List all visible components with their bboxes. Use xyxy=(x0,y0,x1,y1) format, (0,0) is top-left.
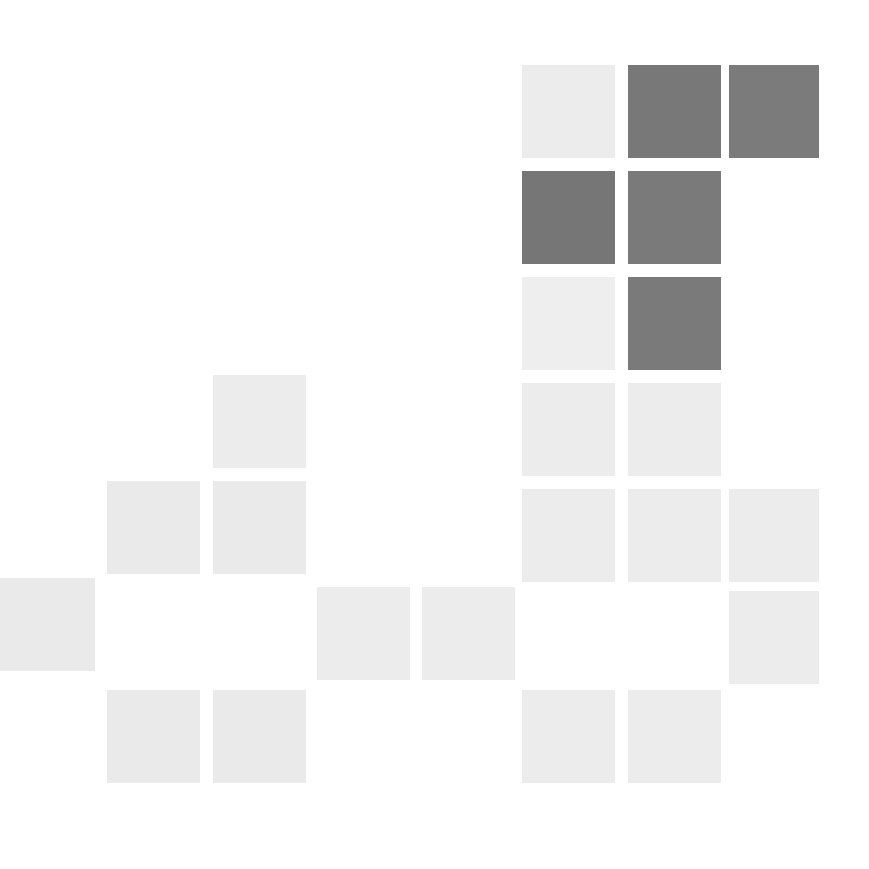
heatmap-cell xyxy=(628,489,721,582)
heatmap-cell xyxy=(522,171,615,264)
heatmap-canvas xyxy=(0,0,869,869)
heatmap-cell xyxy=(107,481,200,574)
heatmap-cell xyxy=(522,383,615,476)
heatmap-cell xyxy=(213,481,306,574)
heatmap-cell xyxy=(0,578,95,671)
heatmap-cell xyxy=(729,65,819,158)
heatmap-cell xyxy=(628,690,721,783)
heatmap-cell xyxy=(628,65,721,158)
heatmap-cell xyxy=(522,690,615,783)
heatmap-cell xyxy=(422,587,515,680)
heatmap-cell xyxy=(628,277,721,370)
heatmap-cell xyxy=(317,587,410,680)
heatmap-cell xyxy=(213,375,306,468)
heatmap-cell xyxy=(522,489,615,582)
heatmap-cell xyxy=(522,65,615,158)
heatmap-cell xyxy=(107,690,200,783)
heatmap-cell xyxy=(729,591,819,684)
heatmap-cell xyxy=(522,277,615,370)
heatmap-cell xyxy=(628,383,721,476)
heatmap-cell xyxy=(628,171,721,264)
heatmap-cell xyxy=(729,489,819,582)
heatmap-cell xyxy=(213,690,306,783)
